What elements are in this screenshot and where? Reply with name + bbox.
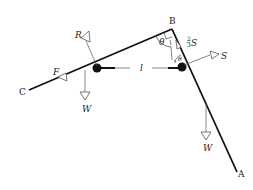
force-f-label: F xyxy=(52,67,60,77)
force-r-label: R xyxy=(74,30,82,40)
force-s-frac-label: S xyxy=(191,38,197,48)
weight-right-arrow-icon xyxy=(201,132,211,140)
right-angle-marker xyxy=(164,32,172,39)
point-b-label: B xyxy=(169,16,176,26)
angle-label-b: θ xyxy=(159,37,165,47)
force-s-arrow-icon xyxy=(210,51,219,59)
angle-tick-2 xyxy=(174,60,176,63)
right-mass xyxy=(178,63,187,72)
free-body-diagram: l R F W S 2 3 S W θ θ B C A xyxy=(0,0,253,190)
angle-label-mass: θ xyxy=(178,55,182,62)
force-r-line xyxy=(86,41,97,66)
force-s-line xyxy=(184,55,210,65)
angle-tick xyxy=(170,40,171,45)
length-label: l xyxy=(140,63,143,73)
rod-bc xyxy=(29,29,172,90)
weight-right-label: W xyxy=(203,143,213,153)
force-f-arrow-icon xyxy=(58,73,67,81)
left-mass xyxy=(93,64,102,73)
point-c-label: C xyxy=(19,87,26,97)
force-s-label: S xyxy=(221,51,227,61)
point-a-label: A xyxy=(237,169,245,179)
force-r-arrow-icon xyxy=(81,31,90,42)
weight-left-label: W xyxy=(82,104,92,114)
weight-left-arrow-icon xyxy=(80,92,90,100)
vertical-guide xyxy=(171,47,172,60)
